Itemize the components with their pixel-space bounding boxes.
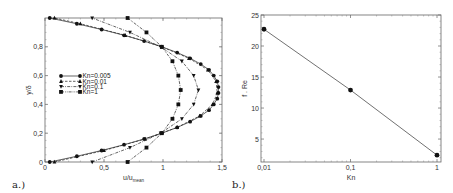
data-point bbox=[212, 74, 216, 78]
y-tick-label-b: 10 bbox=[251, 105, 259, 112]
data-point bbox=[171, 117, 175, 121]
y-tick-label-b: 25 bbox=[251, 12, 259, 19]
ticks-b: 0,010,11510152025 bbox=[251, 12, 441, 172]
legend-marker bbox=[78, 74, 82, 78]
legend-item: Kn=1 bbox=[59, 88, 98, 95]
data-point bbox=[435, 153, 440, 158]
x-tick-label-a: 0,5 bbox=[99, 164, 109, 171]
panel-b: 0,010,11510152025 Kn f . Re b.) bbox=[232, 12, 441, 191]
data-point bbox=[145, 31, 149, 35]
series-group-b bbox=[262, 27, 440, 158]
legend-marker bbox=[78, 90, 82, 94]
y-axis-label-a: y/δ bbox=[25, 85, 33, 94]
x-tick-label-a: 0 bbox=[43, 164, 47, 171]
data-point bbox=[192, 74, 196, 78]
figure: 00,511,500,20,40,60,8 Kn=0.005Kn=0.01Kn=… bbox=[0, 0, 453, 193]
data-point bbox=[126, 16, 130, 20]
data-point bbox=[180, 117, 184, 121]
x-tick-label-a: 1,5 bbox=[217, 164, 227, 171]
data-point bbox=[142, 39, 146, 43]
data-point bbox=[262, 27, 267, 32]
data-point bbox=[171, 59, 175, 63]
y-tick-label-b: 5 bbox=[255, 136, 259, 143]
y-tick-label-a: 0,8 bbox=[33, 43, 43, 50]
data-point bbox=[160, 45, 164, 49]
data-point bbox=[176, 74, 180, 78]
panel-label-a: a.) bbox=[12, 179, 25, 190]
y-tick-label-a: 0,6 bbox=[33, 72, 43, 79]
y-tick-label-b: 20 bbox=[251, 43, 259, 50]
x-tick-label-b: 0,01 bbox=[257, 164, 271, 171]
panel-a: 00,511,500,20,40,60,8 Kn=0.005Kn=0.01Kn=… bbox=[12, 16, 227, 190]
x-tick-label-a: 1 bbox=[161, 164, 165, 171]
series-kn-0-01 bbox=[53, 16, 220, 164]
series-group-a bbox=[48, 16, 221, 164]
data-point bbox=[179, 88, 183, 92]
legend: Kn=0.005Kn=0.01Kn=0.1Kn=1 bbox=[59, 72, 111, 95]
x-tick-label-b: 0,1 bbox=[346, 164, 356, 171]
panel-label-b: b.) bbox=[232, 179, 246, 190]
series-fre bbox=[262, 27, 440, 158]
data-point bbox=[348, 88, 353, 93]
y-tick-label-a: 0 bbox=[39, 159, 43, 166]
data-point bbox=[160, 131, 164, 135]
data-point bbox=[48, 160, 52, 164]
data-point bbox=[126, 160, 130, 164]
legend-marker bbox=[59, 74, 63, 78]
series-line bbox=[128, 18, 181, 162]
legend-marker bbox=[78, 85, 82, 89]
data-point bbox=[48, 16, 52, 20]
legend-marker bbox=[59, 90, 63, 94]
x-axis-label-b: Kn bbox=[347, 174, 356, 181]
data-point bbox=[197, 88, 201, 92]
y-tick-label-a: 0,4 bbox=[33, 101, 43, 108]
data-point bbox=[207, 108, 211, 112]
y-tick-label-b: 15 bbox=[251, 74, 259, 81]
plot-frame-a bbox=[45, 18, 222, 162]
x-axis-label-a: u/umean bbox=[123, 174, 144, 183]
series-kn-0-1 bbox=[90, 16, 200, 164]
y-axis-label-b: f . Re bbox=[241, 80, 248, 97]
data-point bbox=[176, 103, 180, 107]
data-point bbox=[215, 97, 219, 101]
series-line bbox=[50, 18, 219, 162]
x-tick-label-b: 1 bbox=[435, 164, 439, 171]
data-point bbox=[217, 85, 221, 89]
y-tick-label-a: 0,2 bbox=[33, 130, 43, 137]
data-point bbox=[145, 146, 149, 150]
legend-label: Kn=1 bbox=[83, 88, 99, 95]
